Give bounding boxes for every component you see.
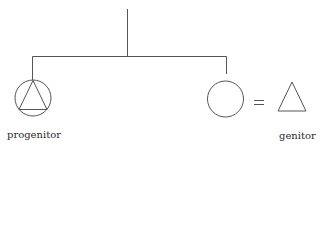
triangle-icon	[19, 81, 47, 110]
genitor-label: genitor	[279, 130, 316, 142]
circle-icon	[15, 80, 51, 116]
progenitor-label: progenitor	[7, 129, 61, 141]
genitor-triangle-icon	[278, 82, 306, 111]
female-circle-icon	[208, 81, 244, 117]
progenitor-symbol	[15, 80, 51, 116]
marriage-equals-icon	[254, 101, 264, 105]
